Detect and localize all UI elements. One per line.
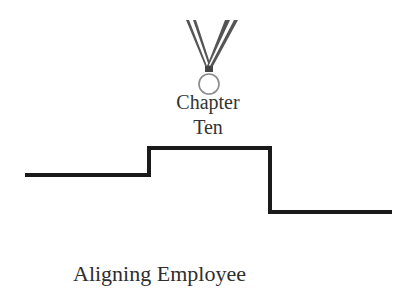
chapter-title: Aligning Employee Competency With Manage…	[73, 201, 305, 308]
title-line-1: Aligning Employee	[73, 259, 305, 288]
